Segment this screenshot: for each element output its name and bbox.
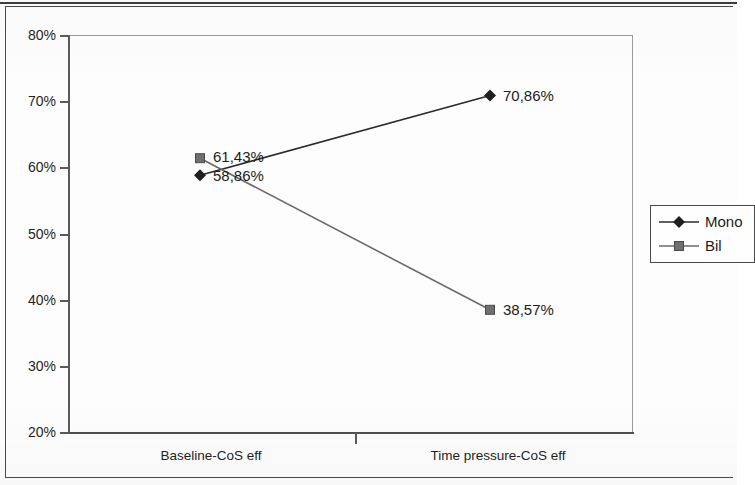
legend-entry-mono: Mono <box>651 210 755 234</box>
page-top-rule <box>0 2 737 4</box>
y-axis-label-70: 70% <box>4 94 56 108</box>
legend-label-bil: Bil <box>705 237 722 255</box>
y-axis-tick-70 <box>60 101 69 103</box>
y-axis-tick-20 <box>60 432 69 434</box>
x-axis-label-baseline: Baseline-CoS eff <box>131 448 291 463</box>
data-label-bil-baseline: 61,43% <box>213 149 264 165</box>
y-axis-label-20: 20% <box>4 425 56 439</box>
x-axis-label-time-pressure: Time pressure-CoS eff <box>398 448 598 463</box>
y-axis-label-80: 80% <box>4 28 56 42</box>
data-label-mono-time-pressure: 70,86% <box>503 88 554 104</box>
y-axis-tick-40 <box>60 300 69 302</box>
legend-entry-bil: Bil <box>651 234 755 258</box>
legend-label-mono: Mono <box>705 213 743 231</box>
y-axis-tick-30 <box>60 366 69 368</box>
data-label-bil-time-pressure: 38,57% <box>503 302 554 318</box>
y-axis-label-40: 40% <box>4 293 56 307</box>
data-label-mono-baseline: 58,86% <box>213 168 264 184</box>
x-axis-line <box>68 432 634 434</box>
y-axis-tick-50 <box>60 234 69 236</box>
y-axis-label-50: 50% <box>4 227 56 241</box>
y-axis-label-30: 30% <box>4 359 56 373</box>
y-axis-label-60: 60% <box>4 160 56 174</box>
chart-legend: Mono Bil <box>650 205 755 263</box>
legend-marker-diamond-icon <box>657 210 701 234</box>
y-axis-tick-60 <box>60 167 69 169</box>
x-axis-mid-tick <box>355 433 357 444</box>
y-axis-tick-80 <box>60 35 69 37</box>
legend-marker-square-icon <box>657 234 701 258</box>
